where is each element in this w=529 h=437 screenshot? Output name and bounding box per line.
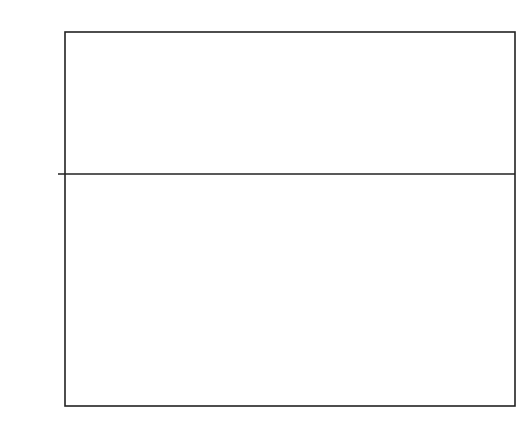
plot-frame	[65, 32, 515, 406]
chart-canvas	[0, 0, 529, 437]
